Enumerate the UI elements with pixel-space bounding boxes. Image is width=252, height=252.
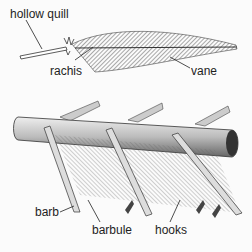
leader-hollow-quill	[26, 20, 42, 49]
label-barbule: barbule	[92, 224, 132, 236]
leader-barb	[60, 206, 74, 212]
label-hooks: hooks	[155, 224, 187, 236]
feather-diagram: hollow quill rachis vane barb barbule ho…	[0, 0, 252, 252]
label-hollow-quill: hollow quill	[10, 8, 69, 20]
leader-barbule	[88, 200, 100, 222]
label-vane: vane	[191, 65, 217, 77]
label-rachis: rachis	[50, 65, 82, 77]
barb-structure	[14, 101, 243, 218]
label-barb: barb	[35, 206, 59, 218]
